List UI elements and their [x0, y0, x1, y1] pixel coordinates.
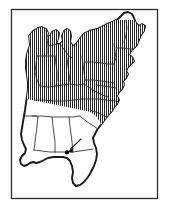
figure-root: [0, 0, 169, 210]
locality-dot-marker: [65, 150, 69, 154]
eastern-us-map: [0, 0, 169, 210]
